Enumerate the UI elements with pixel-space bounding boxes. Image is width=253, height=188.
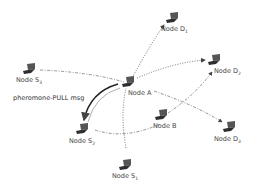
link-b-d2	[168, 72, 212, 113]
laptop-icon	[122, 76, 136, 88]
link-s2-a-thin	[88, 88, 120, 122]
link-a-d1	[131, 25, 164, 80]
laptop-icon	[76, 123, 90, 135]
pheromone-pull-arrow	[84, 84, 118, 120]
node-s2-label: Node S2	[69, 137, 95, 146]
node-b-label: Node B	[153, 122, 177, 130]
node-s3-label: Node S3	[16, 76, 42, 85]
pheromone-pull-label: pheromone-PULL msg	[13, 94, 84, 102]
laptop-icon	[166, 12, 180, 24]
node-d2-label: Node D2	[214, 67, 241, 76]
node-a-label: Node A	[128, 89, 151, 97]
link-s2-b	[95, 124, 160, 134]
laptop-icon	[208, 54, 222, 66]
laptop-icon	[119, 159, 133, 171]
link-s1-a	[123, 88, 126, 148]
laptop-icon	[223, 121, 237, 133]
link-a-d2	[137, 60, 205, 78]
laptop-icon	[155, 109, 169, 121]
laptop-icon	[23, 63, 37, 75]
node-s1-label: Node S1	[112, 172, 138, 181]
node-d3-label: Node D3	[214, 135, 241, 144]
link-s3-a	[40, 70, 124, 82]
network-diagram: Node A Node B Node D1 Node D2 Node D3 No…	[0, 0, 253, 188]
node-d1-label: Node D1	[161, 25, 188, 34]
